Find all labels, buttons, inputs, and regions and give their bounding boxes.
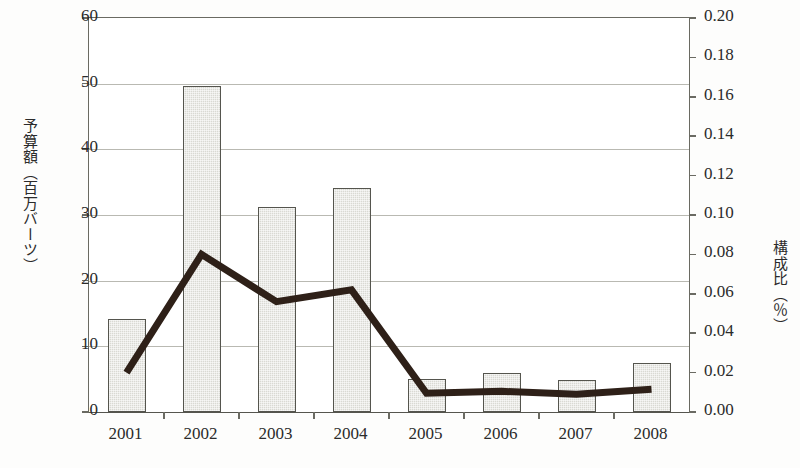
right-tick-label: 0.10 xyxy=(704,203,762,223)
right-axis-title: 構成比（％） xyxy=(760,240,786,333)
left-tick-label: 0 xyxy=(28,400,98,420)
right-tick-label: 0.00 xyxy=(704,400,762,420)
right-tick xyxy=(689,96,696,98)
gridline xyxy=(89,84,689,85)
x-tick-label: 2007 xyxy=(541,424,611,444)
bar xyxy=(483,373,521,412)
right-tick xyxy=(689,372,696,374)
right-tick-label: 0.14 xyxy=(704,124,762,144)
gridline xyxy=(89,149,689,150)
gridline xyxy=(89,281,689,282)
bar xyxy=(558,380,596,412)
left-tick-label: 50 xyxy=(28,72,98,92)
right-tick-label: 0.08 xyxy=(704,242,762,262)
left-tick-label: 40 xyxy=(28,137,98,157)
right-tick xyxy=(689,254,696,256)
left-tick-label: 60 xyxy=(28,6,98,26)
bar xyxy=(258,207,296,412)
right-tick xyxy=(689,214,696,216)
bar xyxy=(183,86,221,412)
bar xyxy=(408,379,446,412)
gridline xyxy=(89,346,689,347)
bar xyxy=(108,319,146,412)
gridline xyxy=(89,215,689,216)
x-tick-label: 2008 xyxy=(616,424,686,444)
plot-area xyxy=(88,17,690,413)
right-tick xyxy=(689,293,696,295)
right-tick xyxy=(689,17,696,19)
x-tick xyxy=(463,412,465,419)
right-tick xyxy=(689,411,696,413)
x-tick xyxy=(388,412,390,419)
right-tick xyxy=(689,175,696,177)
x-tick-label: 2001 xyxy=(91,424,161,444)
right-tick-label: 0.18 xyxy=(704,45,762,65)
x-tick-label: 2002 xyxy=(166,424,236,444)
x-tick-label: 2004 xyxy=(316,424,386,444)
left-tick-label: 10 xyxy=(28,334,98,354)
bar xyxy=(633,363,671,412)
left-tick-label: 20 xyxy=(28,269,98,289)
right-tick-label: 0.02 xyxy=(704,361,762,381)
x-tick-label: 2003 xyxy=(241,424,311,444)
x-tick xyxy=(538,412,540,419)
x-tick xyxy=(313,412,315,419)
bar xyxy=(333,188,371,412)
right-tick-label: 0.04 xyxy=(704,321,762,341)
right-tick-label: 0.20 xyxy=(704,6,762,26)
x-tick xyxy=(163,412,165,419)
left-tick-label: 30 xyxy=(28,203,98,223)
right-tick-label: 0.12 xyxy=(704,164,762,184)
x-tick-label: 2005 xyxy=(391,424,461,444)
right-tick xyxy=(689,135,696,137)
right-tick xyxy=(689,332,696,334)
x-tick xyxy=(613,412,615,419)
chart-root: 予算額（百万バーツ） 構成比（％） 0102030405060 0.000.02… xyxy=(0,0,800,468)
x-tick-label: 2006 xyxy=(466,424,536,444)
right-tick-label: 0.16 xyxy=(704,85,762,105)
x-tick xyxy=(238,412,240,419)
right-tick-label: 0.06 xyxy=(704,282,762,302)
right-tick xyxy=(689,57,696,59)
